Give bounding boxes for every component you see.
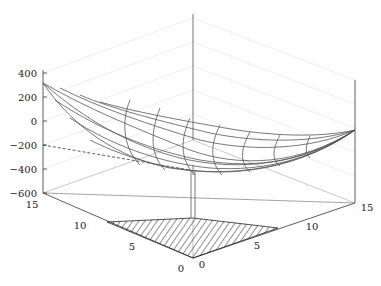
surface-mesh	[43, 83, 355, 175]
z-tick-200: 200	[18, 92, 37, 103]
x-tick-10: 10	[74, 220, 87, 231]
y-tick-10: 10	[306, 221, 319, 232]
z-tick-labels: 400 200 0 −200 −400 −600	[10, 68, 37, 199]
z-axis	[43, 14, 355, 203]
surface-plot: 400 200 0 −200 −400 −600 0 5 10 15 0 5 1…	[0, 0, 381, 286]
y-tick-5: 5	[254, 240, 260, 251]
z-tick-m400: −400	[10, 164, 37, 175]
x-tick-5: 5	[129, 241, 135, 252]
z-tick-m200: −200	[10, 140, 37, 151]
x-tick-0: 0	[178, 263, 184, 274]
z-tick-0: 0	[31, 116, 37, 127]
z-tick-400: 400	[18, 68, 37, 79]
x-tick-15: 15	[26, 199, 39, 210]
y-tick-0: 0	[199, 259, 205, 270]
y-tick-15: 15	[361, 202, 374, 213]
z-tick-m600: −600	[10, 188, 37, 199]
